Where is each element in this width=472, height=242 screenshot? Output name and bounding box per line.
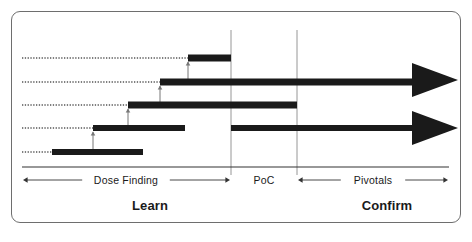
study-bar-row-5-starting-dose bbox=[52, 149, 143, 155]
axis-label-poc: PoC bbox=[253, 174, 274, 186]
study-bar-row-4-pivotal-cohort-seg2 bbox=[231, 125, 414, 131]
axis-arrow-end-pivotals bbox=[443, 177, 448, 182]
study-bar-row-2-poc-cohort bbox=[160, 79, 414, 86]
axis-arrow-end-dose-finding bbox=[225, 177, 230, 182]
study-bar-row-1-highest-dose bbox=[188, 55, 231, 62]
connector-arrow-connector-2 bbox=[158, 86, 163, 90]
study-bar-row-3-mid-dose bbox=[128, 102, 297, 109]
phase-label-learn: Learn bbox=[132, 198, 168, 213]
diagram-canvas: Dose Finding PoC Pivotals Learn Confirm bbox=[0, 0, 472, 242]
study-bar-row-4-pivotal-cohort-seg1 bbox=[93, 125, 185, 131]
connector-arrow-connector-1 bbox=[186, 62, 191, 66]
axis-arrow-start-pivotals bbox=[298, 177, 303, 182]
axis-label-dose-finding: Dose Finding bbox=[94, 174, 158, 186]
phase-label-confirm: Confirm bbox=[362, 198, 413, 213]
arrowhead-pivotal bbox=[412, 111, 458, 145]
arrowhead-poc bbox=[412, 63, 458, 97]
connector-arrow-connector-3 bbox=[126, 109, 131, 113]
arrowhead-group bbox=[412, 63, 458, 145]
axis-label-pivotals: Pivotals bbox=[354, 174, 392, 186]
connector-arrow-connector-4 bbox=[91, 132, 96, 136]
axis-arrow-start-dose-finding bbox=[23, 177, 28, 182]
